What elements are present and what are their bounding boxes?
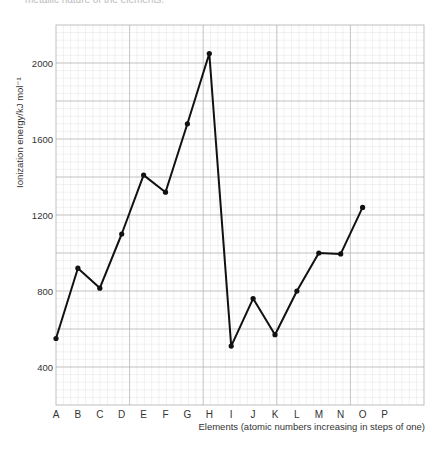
svg-text:P: P [381, 409, 388, 420]
data-point [75, 266, 80, 271]
svg-text:400: 400 [37, 362, 53, 373]
svg-text:A: A [53, 409, 60, 420]
y-axis-ticks: 400800120016002000 [32, 58, 53, 373]
svg-text:B: B [75, 409, 82, 420]
svg-text:H: H [206, 409, 213, 420]
x-axis-label: Elements (atomic numbers increasing in s… [198, 421, 425, 432]
svg-text:F: F [162, 409, 168, 420]
svg-text:L: L [294, 409, 300, 420]
data-point [229, 344, 234, 349]
line-chart: 400800120016002000 ABCDEFGHIJKLMNOP [0, 0, 447, 452]
svg-text:800: 800 [37, 286, 53, 297]
svg-text:K: K [272, 409, 279, 420]
data-point [53, 336, 58, 341]
data-point [119, 231, 124, 236]
svg-text:I: I [230, 409, 233, 420]
data-point [338, 251, 343, 256]
x-axis-ticks: ABCDEFGHIJKLMNOP [53, 409, 389, 420]
data-point [185, 121, 190, 126]
svg-text:E: E [140, 409, 147, 420]
svg-text:O: O [359, 409, 367, 420]
svg-text:D: D [118, 409, 125, 420]
data-point [207, 51, 212, 56]
data-point [163, 190, 168, 195]
svg-text:G: G [184, 409, 192, 420]
svg-text:N: N [337, 409, 344, 420]
svg-text:1200: 1200 [32, 210, 53, 221]
data-point [360, 205, 365, 210]
svg-text:C: C [96, 409, 103, 420]
y-axis-label: Ionization energy/kJ mol⁻¹ [14, 28, 28, 188]
data-point [294, 288, 299, 293]
svg-text:M: M [315, 409, 323, 420]
svg-text:1600: 1600 [32, 134, 53, 145]
data-point [251, 296, 256, 301]
svg-text:J: J [251, 409, 256, 420]
data-point [97, 286, 102, 291]
svg-text:2000: 2000 [32, 58, 53, 69]
data-point [316, 250, 321, 255]
data-point [272, 332, 277, 337]
data-point [141, 173, 146, 178]
